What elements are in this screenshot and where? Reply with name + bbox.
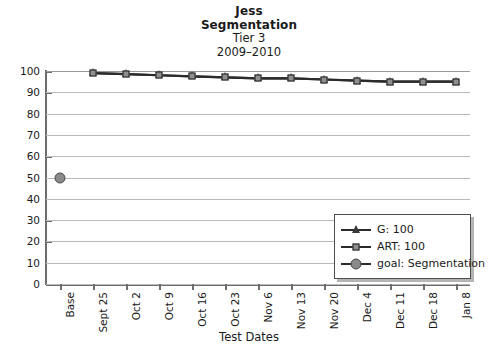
y-tick-label: 10 <box>10 257 40 269</box>
legend-item-label: G: 100 <box>377 223 414 236</box>
data-point-square <box>354 77 361 84</box>
data-point-square <box>189 73 196 80</box>
x-tick-label: Dec 4 <box>361 292 373 322</box>
x-tick-label: Oct 23 <box>229 292 241 327</box>
y-tick-label: 0 <box>10 278 40 290</box>
legend-item-label: goal: Segmentation <box>377 257 485 270</box>
legend-circle-icon <box>341 257 371 271</box>
legend-square-icon <box>341 240 371 254</box>
data-point-square <box>222 74 229 81</box>
legend-item: G: 100 <box>341 221 463 238</box>
x-tick-label: Dec 11 <box>394 292 406 329</box>
data-point-square <box>288 75 295 82</box>
data-point-square <box>453 78 460 85</box>
data-point-square <box>321 76 328 83</box>
data-point-square <box>156 72 163 79</box>
y-tick-label: 100 <box>10 65 40 77</box>
x-tick-label: Nov 13 <box>295 292 307 329</box>
x-tick-label: Dec 18 <box>427 292 439 329</box>
chart-title-block: Jess Segmentation Tier 3 2009–2010 <box>0 4 498 59</box>
y-tick-label: 40 <box>10 193 40 205</box>
y-tick-label: 20 <box>10 235 40 247</box>
data-point-circle <box>55 172 66 183</box>
y-tick-label: 80 <box>10 108 40 120</box>
data-point-square <box>255 75 262 82</box>
x-tick-mark <box>291 284 293 290</box>
data-point-square <box>123 71 130 78</box>
y-tick-label: 30 <box>10 214 40 226</box>
y-tick-label: 50 <box>10 172 40 184</box>
chart-legend: G: 100ART: 100goal: Segmentation <box>334 214 471 279</box>
x-tick-mark <box>324 284 326 290</box>
x-tick-label: Oct 9 <box>163 292 175 320</box>
x-tick-mark <box>126 284 128 290</box>
x-tick-mark <box>390 284 392 290</box>
y-axis-ticks: 0102030405060708090100 <box>6 0 40 353</box>
chart-title-line-2: Segmentation <box>0 18 498 32</box>
data-point-square <box>420 78 427 85</box>
x-tick-mark <box>60 284 62 290</box>
x-tick-label: Oct 16 <box>196 292 208 327</box>
chart-subtitle-years: 2009–2010 <box>0 46 498 60</box>
x-axis-title: Test Dates <box>0 330 498 344</box>
x-tick-mark <box>456 284 458 290</box>
x-tick-label: Nov 6 <box>262 292 274 323</box>
y-tick-label: 60 <box>10 150 40 162</box>
x-tick-label: Base <box>64 292 76 318</box>
x-tick-label: Jan 8 <box>460 292 472 318</box>
y-tick-label: 70 <box>10 129 40 141</box>
legend-item: goal: Segmentation <box>341 255 463 272</box>
legend-item-label: ART: 100 <box>377 240 425 253</box>
legend-triangle-icon <box>341 223 371 237</box>
x-tick-mark <box>93 284 95 290</box>
y-tick-label: 90 <box>10 86 40 98</box>
x-tick-label: Sept 25 <box>97 292 109 333</box>
x-tick-mark <box>192 284 194 290</box>
x-tick-mark <box>225 284 227 290</box>
legend-item: ART: 100 <box>341 238 463 255</box>
chart-subtitle-tier: Tier 3 <box>0 32 498 46</box>
x-tick-label: Oct 2 <box>130 292 142 320</box>
x-tick-mark <box>258 284 260 290</box>
data-point-square <box>387 78 394 85</box>
series-line <box>93 73 456 82</box>
data-point-square <box>90 70 97 77</box>
chart-title-line-1: Jess <box>0 4 498 18</box>
x-tick-mark <box>357 284 359 290</box>
chart-container: Jess Segmentation Tier 3 2009–2010 01020… <box>0 0 498 353</box>
x-tick-mark <box>159 284 161 290</box>
x-tick-mark <box>423 284 425 290</box>
x-tick-label: Nov 20 <box>328 292 340 329</box>
